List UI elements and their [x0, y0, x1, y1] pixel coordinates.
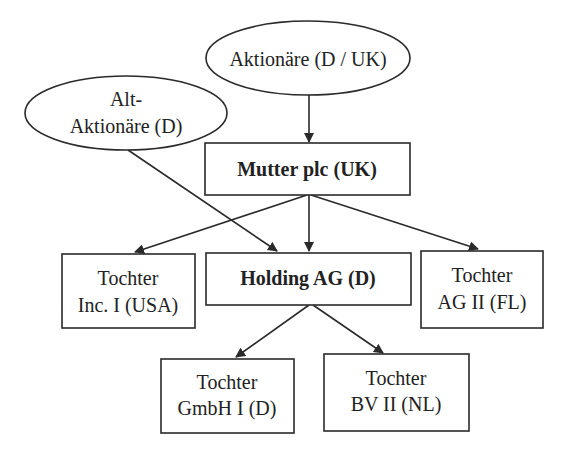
edge-mutter-to-tochter-inc — [135, 195, 307, 252]
node-label-line-2: GmbH I (D) — [178, 397, 277, 420]
node-label-line-1: Alt- — [110, 88, 142, 110]
node-label-line-2: Inc. I (USA) — [78, 294, 179, 317]
node-label-line-1: Tochter — [98, 267, 159, 289]
node-label: Aktionäre (D / UK) — [229, 48, 386, 71]
node-label: Holding AG (D) — [240, 267, 376, 290]
rect-shape — [62, 254, 195, 328]
node-label: Mutter plc (UK) — [237, 158, 377, 181]
rect-shape — [421, 251, 543, 328]
node-label-line-2: AG II (FL) — [438, 291, 527, 314]
node-holding: Holding AG (D) — [206, 253, 411, 305]
node-tochter-gmbh: Tochter GmbH I (D) — [161, 359, 294, 433]
edge-holding-to-tochter-gmbh — [236, 305, 309, 357]
node-label-line-1: Tochter — [197, 371, 258, 393]
edge-holding-to-tochter-bv — [313, 305, 383, 353]
node-mutter: Mutter plc (UK) — [205, 143, 410, 195]
node-tochter-bv: Tochter BV II (NL) — [324, 354, 469, 431]
ownership-diagram: Aktionäre (D / UK) Alt- Aktionäre (D) Mu… — [0, 0, 569, 458]
edge-mutter-to-tochter-ag — [311, 195, 478, 249]
node-label-line-2: BV II (NL) — [351, 393, 442, 416]
node-label-line-1: Tochter — [366, 367, 427, 389]
node-label-line-1: Tochter — [452, 264, 513, 286]
node-alt-aktionaere: Alt- Aktionäre (D) — [25, 76, 227, 150]
node-label-line-2: Aktionäre (D) — [70, 115, 183, 138]
node-aktionaere: Aktionäre (D / UK) — [206, 21, 410, 95]
node-tochter-ag: Tochter AG II (FL) — [421, 251, 543, 328]
node-tochter-inc: Tochter Inc. I (USA) — [62, 254, 195, 328]
